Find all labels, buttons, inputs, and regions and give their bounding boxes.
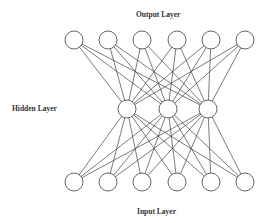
- hidden-node: [199, 100, 217, 118]
- connection-line: [74, 109, 208, 182]
- connection-line: [208, 40, 211, 109]
- neural-network-diagram: Output Layer Hidden Layer Input Layer: [0, 0, 272, 223]
- connection-line: [208, 109, 211, 182]
- connection-line: [168, 109, 211, 182]
- connection-line: [108, 40, 168, 109]
- connection-line: [74, 40, 208, 109]
- output-node: [236, 31, 254, 49]
- connection-line: [208, 109, 245, 182]
- hidden-node: [159, 100, 177, 118]
- input-layer-label: Input Layer: [137, 207, 176, 216]
- connection-line: [108, 40, 208, 109]
- input-node: [133, 173, 151, 191]
- input-node: [168, 173, 186, 191]
- connection-line: [108, 109, 127, 182]
- output-layer-label: Output Layer: [136, 10, 180, 19]
- connection-line: [168, 40, 211, 109]
- connection-line: [168, 40, 245, 109]
- output-node: [168, 31, 186, 49]
- connection-line: [74, 109, 127, 182]
- connection-line: [108, 109, 168, 182]
- connection-line: [127, 40, 245, 109]
- connection-line: [127, 109, 245, 182]
- connection-line: [208, 40, 245, 109]
- input-node: [99, 173, 117, 191]
- connection-line: [108, 109, 208, 182]
- connection-line: [108, 40, 127, 109]
- hidden-node: [118, 100, 136, 118]
- output-node: [99, 31, 117, 49]
- connection-line: [74, 109, 168, 182]
- output-node: [202, 31, 220, 49]
- input-node: [202, 173, 220, 191]
- connection-line: [74, 40, 168, 109]
- hidden-layer-label: Hidden Layer: [12, 104, 57, 113]
- connection-line: [142, 109, 168, 182]
- output-node: [133, 31, 151, 49]
- output-node: [65, 31, 83, 49]
- connection-line: [142, 40, 168, 109]
- input-node: [236, 173, 254, 191]
- input-node: [65, 173, 83, 191]
- connection-line: [168, 109, 245, 182]
- connection-line: [74, 40, 127, 109]
